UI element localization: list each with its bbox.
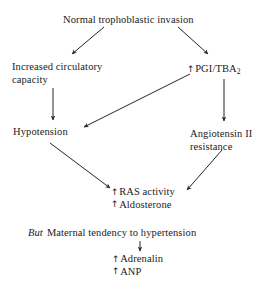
node-adrenalin-label2: ANP <box>120 266 141 277</box>
node-increased-circulatory-capacity: Increased circulatory capacity <box>12 61 102 86</box>
node-adrenalin-line2: ↑ANP <box>112 266 163 279</box>
up-arrow-icon: ↑ <box>112 267 120 276</box>
up-arrow-icon: ↑ <box>112 255 120 264</box>
flowchart-diagram: Normal trophoblastic invasion Increased … <box>0 0 276 283</box>
node-ras-label1: RAS activity <box>119 186 175 197</box>
node-increased-line2: capacity <box>12 74 102 87</box>
up-arrow-icon: ↑ <box>111 200 119 209</box>
node-pgi-label: PGI/TBA <box>195 63 237 74</box>
edge-hypotension-to-ras <box>50 143 110 188</box>
up-arrow-icon: ↑ <box>187 65 195 74</box>
node-pgi-subscript: 2 <box>237 67 241 76</box>
node-hypotension: Hypotension <box>13 126 68 139</box>
node-angiotensin-line2: resistance <box>190 141 252 154</box>
node-maternal-text: Maternal tendency to hypertension <box>47 227 196 238</box>
up-arrow-icon: ↑ <box>111 188 119 197</box>
node-pgi-tba2: ↑PGI/TBA2 <box>187 63 241 79</box>
node-hypotension-text: Hypotension <box>13 126 68 139</box>
node-pgi-line: ↑PGI/TBA2 <box>187 63 241 79</box>
node-ras-line1: ↑RAS activity <box>111 186 175 199</box>
node-normal-trophoblastic-invasion: Normal trophoblastic invasion <box>63 14 194 27</box>
edge-angiotensin-to-ras <box>187 150 222 190</box>
node-increased-line1: Increased circulatory <box>12 61 102 74</box>
edge-title-to-pgi <box>178 27 208 54</box>
node-ras-activity-aldosterone: ↑RAS activity ↑Aldosterone <box>111 186 175 211</box>
node-adrenalin-label1: Adrenalin <box>120 253 163 264</box>
node-angiotensin-line1: Angiotensin II <box>190 128 252 141</box>
node-ras-label2: Aldosterone <box>119 199 171 210</box>
node-maternal-prefix: But <box>28 227 43 238</box>
edge-title-to-increased <box>72 27 104 54</box>
node-title-text: Normal trophoblastic invasion <box>63 14 194 27</box>
node-adrenalin-line1: ↑Adrenalin <box>112 253 163 266</box>
node-maternal-line: ButMaternal tendency to hypertension <box>28 227 196 240</box>
node-ras-line2: ↑Aldosterone <box>111 199 175 212</box>
node-angiotensin-ii-resistance: Angiotensin II resistance <box>190 128 252 153</box>
node-adrenalin-anp: ↑Adrenalin ↑ANP <box>112 253 163 278</box>
node-maternal-tendency-to-hypertension: ButMaternal tendency to hypertension <box>28 227 196 240</box>
